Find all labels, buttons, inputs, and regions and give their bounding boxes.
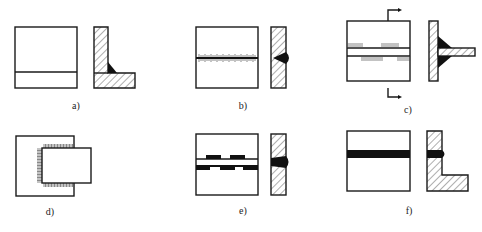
panel-d: d) (16, 136, 91, 218)
plan-view-a (15, 27, 77, 88)
section-arrow-top (388, 8, 402, 21)
panel-b: b) (196, 27, 289, 112)
fillet-weld-top-icon (438, 36, 452, 48)
weld-joint-diagram: a) b) (0, 0, 482, 232)
butt-weld-icon (271, 156, 289, 168)
fillet-weld-bottom-icon (438, 56, 452, 68)
panel-label-c: c) (404, 104, 412, 116)
panel-c: c) (347, 8, 475, 116)
panel-label-f: f) (406, 205, 413, 217)
section-view-e (271, 134, 289, 195)
panel-label-d: d) (46, 206, 54, 218)
panel-label-b: b) (239, 100, 247, 112)
butt-weld-icon (427, 150, 445, 158)
continuous-weld-band (347, 150, 410, 158)
panel-e: e) (196, 134, 289, 217)
plan-view-c (347, 21, 410, 81)
plan-view-e (196, 134, 258, 195)
section-arrow-bottom (388, 88, 402, 99)
section-view-f (427, 131, 468, 191)
section-view-c (429, 21, 475, 81)
panel-a: a) (15, 27, 135, 112)
fillet-weld-icon (108, 62, 117, 73)
panel-label-a: a) (72, 100, 80, 112)
panel-f: f) (347, 131, 468, 217)
plan-view-f (347, 131, 410, 191)
plan-view-d (16, 136, 91, 196)
panel-label-e: e) (239, 205, 247, 217)
section-view-b (271, 27, 289, 88)
section-view-a (94, 27, 135, 88)
plan-view-b (196, 27, 258, 88)
